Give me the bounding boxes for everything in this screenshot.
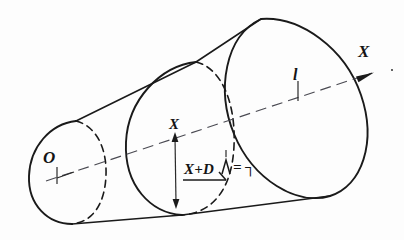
label-formula-lhs: X+D bbox=[183, 161, 214, 177]
label-radius-x: X bbox=[168, 116, 180, 132]
paper-background bbox=[0, 0, 404, 240]
figure-canvas: O X l X X+D = ┐ bbox=[0, 0, 404, 240]
stray-ink-dot bbox=[391, 69, 393, 71]
label-origin: O bbox=[43, 148, 55, 167]
label-formula-result: ┐ bbox=[245, 159, 256, 177]
label-length-l: l bbox=[293, 66, 298, 83]
label-formula-equals: = bbox=[233, 159, 242, 175]
label-axis-x: X bbox=[357, 42, 370, 61]
cone-diagram-svg: O X l X X+D = ┐ bbox=[0, 0, 404, 240]
